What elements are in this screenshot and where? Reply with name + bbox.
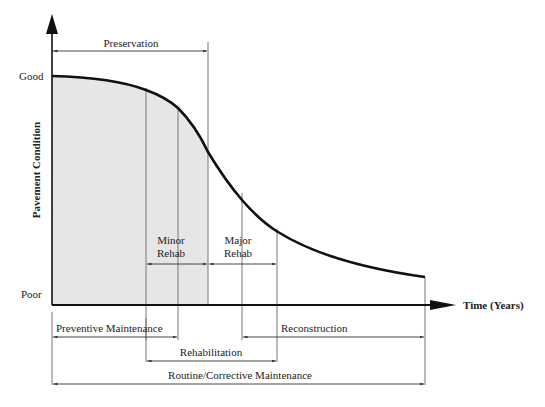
pavement-lifecycle-diagram: Good Poor Pavement Condition Time (Years… <box>0 0 545 407</box>
routine-corrective-maintenance-bracket: Routine/Corrective Maintenance <box>53 369 424 384</box>
preventive-maintenance-label: Preventive Maintenance <box>56 322 163 334</box>
rehabilitation-label: Rehabilitation <box>180 346 243 358</box>
preservation-label: Preservation <box>104 37 159 49</box>
y-axis-bottom-label: Poor <box>21 288 42 300</box>
preventive-maintenance-bracket: Preventive Maintenance <box>53 322 177 337</box>
minor-rehab-label-line2: Rehab <box>157 247 186 259</box>
preservation-bracket: Preservation <box>53 37 207 51</box>
reconstruction-label: Reconstruction <box>281 322 348 334</box>
major-rehab-label-line2: Rehab <box>224 247 253 259</box>
x-axis-title: Time (Years) <box>463 299 524 312</box>
y-axis-top-label: Good <box>19 70 44 82</box>
preservation-shaded-area <box>52 76 208 305</box>
x-axis-arrow-icon <box>430 300 456 310</box>
rehabilitation-bracket: Rehabilitation <box>147 346 276 361</box>
y-axis-arrow-icon <box>46 14 58 34</box>
routine-corrective-maintenance-label: Routine/Corrective Maintenance <box>168 369 312 381</box>
minor-rehab-label-line1: Minor <box>157 234 185 246</box>
y-axis-title: Pavement Condition <box>30 122 42 218</box>
reconstruction-bracket: Reconstruction <box>243 322 424 337</box>
major-rehab-label-line1: Major <box>225 234 252 246</box>
